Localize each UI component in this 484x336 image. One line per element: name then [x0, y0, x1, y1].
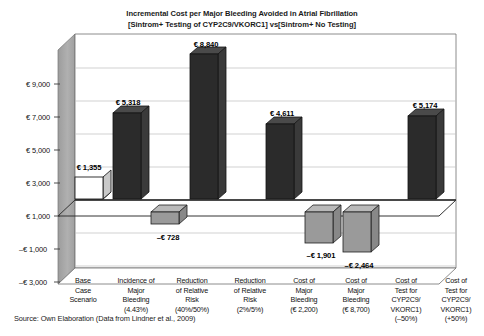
- x-category-base-case-scenario: Base Case Scenario: [57, 276, 109, 305]
- x-category-reduction-relative-risk-2-5: Reduction of Relative Risk (2%/5%): [221, 276, 279, 314]
- x-cat-line: CYP2C9/: [378, 295, 434, 305]
- x-cat-line: Major: [107, 286, 165, 296]
- x-cat-line: CYP2C9/: [428, 295, 484, 305]
- y-tick-label-9000: € 9,000: [4, 80, 50, 89]
- y-tick-label-3000: € 3,000: [4, 179, 50, 188]
- x-cat-line: Major: [328, 286, 384, 296]
- x-cat-line: (€ 8,700): [328, 305, 384, 315]
- data-label-cost-test-plus50: € 5,174: [397, 101, 453, 110]
- data-label-cost-test-minus50: –€ 2,464: [331, 261, 387, 270]
- chart-left-wall: [58, 34, 75, 284]
- bar-cost-major-bleeding-8700[interactable]: [305, 205, 341, 243]
- x-cat-line: Major: [276, 286, 332, 296]
- x-category-cost-major-bleeding-8700: Cost of Major Bleeding (€ 8,700): [328, 276, 384, 314]
- x-cat-line: Risk: [163, 295, 221, 305]
- x-cat-line: Scenario: [57, 295, 109, 305]
- x-category-reduction-relative-risk-40-50: Reduction of Relative Risk (40%/50%): [163, 276, 221, 314]
- x-cat-line: Cost of: [328, 276, 384, 286]
- data-label-rrr-40-50: –€ 728: [141, 233, 195, 242]
- bar-cost-test-minus50[interactable]: [343, 205, 379, 252]
- bar-cost-test-plus50[interactable]: [408, 109, 444, 199]
- x-cat-line: of Relative: [221, 286, 279, 296]
- x-cat-line: Incidence of: [107, 276, 165, 286]
- x-cat-line: (€ 2,200): [276, 305, 332, 315]
- x-cat-line: Bleeding: [276, 295, 332, 305]
- source-note: Source: Own Elaboration (Data from Lindn…: [14, 314, 195, 323]
- x-category-cost-test-minus50: Cost of Test for CYP2C9/ VKORC1) (–50%): [378, 276, 434, 324]
- y-tick-label-5000: € 5,000: [4, 146, 50, 155]
- x-category-cost-major-bleeding-2200: Cost of Major Bleeding (€ 2,200): [276, 276, 332, 314]
- x-cat-line: Test for: [428, 286, 484, 296]
- data-label-incidence: € 5,318: [100, 98, 156, 107]
- x-cat-line: (40%/50%): [163, 305, 221, 315]
- bar-cost-major-bleeding-2200[interactable]: [266, 117, 302, 199]
- x-cat-line: Risk: [221, 295, 279, 305]
- x-category-cost-test-plus50: Cost of Test for CYP2C9/ VKORC1) (+50%): [428, 276, 484, 324]
- x-cat-line: of Relative: [163, 286, 221, 296]
- x-cat-line: (+50%): [428, 314, 484, 324]
- y-tick-label-neg1000: –€ 1,000: [1, 245, 47, 254]
- x-cat-line: Case: [57, 286, 109, 296]
- data-label-cost-bleeding-2200: € 4,611: [254, 109, 310, 118]
- x-cat-line: Reduction: [221, 276, 279, 286]
- x-cat-line: Test for: [378, 286, 434, 296]
- x-cat-line: Reduction: [163, 276, 221, 286]
- y-tick-label-7000: € 7,000: [4, 113, 50, 122]
- x-cat-line: Bleeding: [107, 295, 165, 305]
- chart-figure: Incremental Cost per Major Bleeding Avoi…: [0, 0, 484, 336]
- y-tick-label-1000: € 1,000: [4, 212, 50, 221]
- bar-reduction-relative-risk-40-50[interactable]: [151, 205, 187, 224]
- x-category-incidence-major-bleeding: Incidence of Major Bleeding (4.43%): [107, 276, 165, 314]
- x-cat-line: Base: [57, 276, 109, 286]
- data-label-cost-bleeding-8700: –€ 1,901: [293, 251, 349, 260]
- x-cat-line: Cost of: [378, 276, 434, 286]
- x-cat-line: VKORC1): [428, 305, 484, 315]
- x-cat-line: Cost of: [276, 276, 332, 286]
- x-cat-line: (–50%): [378, 314, 434, 324]
- x-cat-line: (2%/5%): [221, 305, 279, 315]
- data-label-rrr-2-5: € 8,840: [178, 40, 234, 49]
- x-cat-line: VKORC1): [378, 305, 434, 315]
- x-cat-line: Cost of: [428, 276, 484, 286]
- bar-reduction-relative-risk-2-5[interactable]: [190, 47, 226, 199]
- data-label-base-case: € 1,355: [62, 163, 116, 172]
- y-tick-label-neg3000: –€ 3,000: [1, 278, 47, 287]
- bar-incidence-major-bleeding[interactable]: [113, 106, 149, 199]
- x-cat-line: Bleeding: [328, 295, 384, 305]
- x-cat-line: (4.43%): [107, 305, 165, 315]
